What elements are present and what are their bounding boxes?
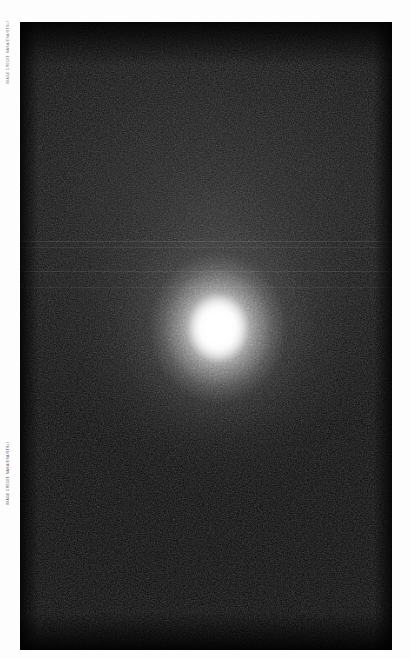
halo-mottle-texture: [68, 168, 368, 488]
saturated-core: [186, 292, 250, 364]
sky-background-gradient: [20, 22, 392, 650]
scanline-artifact: [20, 271, 392, 272]
source-outer-halo: [58, 158, 378, 498]
plate-vignette: [20, 22, 392, 650]
sensor-grain-layer: [20, 22, 392, 650]
scanline-artifact: [20, 247, 392, 248]
page-background: IMAGE CREDIT: NASA/ESA/STScI IMAGE CREDI…: [0, 0, 410, 659]
scanline-artifact: [20, 241, 392, 242]
source-inner-halo: [133, 235, 303, 421]
image-credit-top: IMAGE CREDIT: NASA/ESA/STScI: [6, 0, 10, 84]
astronomical-image-plate: [20, 22, 392, 650]
scanline-artifact: [20, 287, 392, 288]
image-credit-bottom: IMAGE CREDIT: NASA/ESA/STScI: [6, 385, 10, 505]
sensor-grain-layer-fine: [20, 22, 392, 650]
